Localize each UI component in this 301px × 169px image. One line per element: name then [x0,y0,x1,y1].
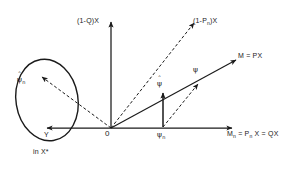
psi-hat-accent-vertical: ˆ [158,76,162,83]
axis-label-eq: = P [236,130,249,137]
ray-label-tail: )X [210,17,217,24]
psi-subscript-axis: n [162,134,165,140]
ray-label-lead: (1-P [193,17,207,24]
psi-glyph-diagonal: ψ [193,65,198,74]
psi-n-axis-label: ψn [157,131,166,139]
vector-space-diagram: (1-Q)X (1-Pn)X M = PX Mn = Pn X = QX 0 ˆ… [0,0,301,169]
psi-hat-vertical-label: ˆψ [157,80,162,88]
ray-psi-hat-n-ellipse [42,77,111,128]
psi-hat-accent-ellipse: ˆ [18,72,22,79]
psi-subscript-ellipse: n [22,79,25,85]
psi-diagonal-label: ψ [193,66,198,74]
y-label: Y [44,131,49,138]
ray-m-px-label: M = PX [238,52,262,59]
ellipse-caption: in X* [33,148,49,155]
diagram-canvas [0,0,301,169]
axis-label-m-subscript: n [233,133,236,139]
axis-label-rest: X = QX [252,130,278,137]
psi-hat-n-ellipse-label: ˆψn [17,76,26,84]
ray-label-subscript: n [207,20,210,26]
horizontal-axis-label: Mn = Pn X = QX [227,130,279,137]
origin-label: 0 [105,130,110,138]
vertical-axis-label: (1-Q)X [77,17,99,24]
ray-m-px [111,60,236,128]
ray-one-minus-pn-x-label: (1-Pn)X [193,17,217,24]
ray-one-minus-pn-x [111,23,194,128]
